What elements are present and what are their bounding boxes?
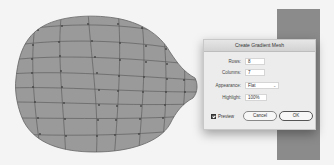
columns-input[interactable]: 7 (245, 69, 265, 76)
columns-label: Columns: (222, 70, 241, 75)
rows-input[interactable]: 8 (245, 58, 265, 65)
appearance-select[interactable]: Flat ⌄ (245, 82, 279, 89)
highlight-label: Highlight: (222, 95, 241, 100)
highlight-row: Highlight: 100% (204, 94, 315, 102)
preview-checkbox[interactable]: Preview (211, 114, 234, 119)
cancel-button[interactable]: Cancel (243, 111, 277, 121)
gradient-mesh-object[interactable] (0, 0, 205, 165)
appearance-label: Appearance: (215, 83, 241, 88)
appearance-row: Appearance: Flat ⌄ (204, 82, 315, 90)
mesh-shape-icon (0, 0, 205, 165)
create-gradient-mesh-dialog: Create Gradient Mesh Rows: 8 Columns: 7 … (203, 39, 316, 130)
chevron-down-icon: ⌄ (273, 83, 276, 89)
rows-row: Rows: 8 (204, 58, 315, 66)
highlight-input[interactable]: 100% (245, 94, 267, 101)
preview-label: Preview (218, 114, 234, 119)
columns-row: Columns: 7 (204, 69, 315, 77)
dialog-title: Create Gradient Mesh (204, 40, 315, 52)
rows-label: Rows: (228, 59, 241, 64)
checkbox-checked-icon (211, 114, 216, 119)
ok-button[interactable]: OK (279, 111, 313, 121)
appearance-value: Flat (248, 83, 256, 88)
